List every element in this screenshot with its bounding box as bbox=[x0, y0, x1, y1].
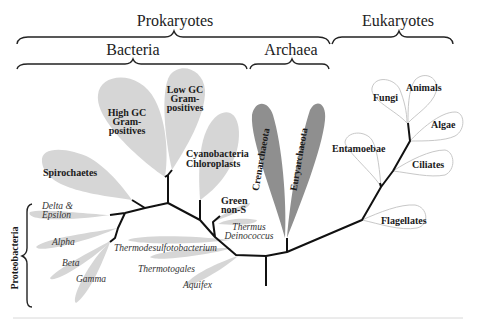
eukaryotes-label: Eukaryotes bbox=[362, 12, 434, 30]
cyanobacteria-label: CyanobacteriaChloroplasts bbox=[186, 148, 249, 169]
alpha-label: Alpha bbox=[51, 237, 75, 247]
delta-label: Delta &Epsilon bbox=[41, 201, 73, 220]
algae-label: Algae bbox=[431, 119, 456, 130]
spirochaetes-label: Spirochaetes bbox=[43, 167, 97, 178]
archaea-label: Archaea bbox=[264, 41, 317, 58]
bacteria-brace bbox=[17, 59, 247, 69]
bacteria-label: Bacteria bbox=[106, 41, 159, 58]
fungi-label: Fungi bbox=[373, 92, 398, 103]
thermotogales-label: Thermotogales bbox=[138, 264, 195, 274]
beta-label: Beta bbox=[62, 258, 80, 268]
animals-label: Animals bbox=[406, 82, 442, 93]
entamoebae-label: Entamoebae bbox=[332, 143, 386, 154]
thermus-label: ThermusDeinococcus bbox=[223, 222, 273, 241]
prokaryotes-label: Prokaryotes bbox=[137, 12, 213, 30]
proteobacteria-brace bbox=[22, 204, 32, 307]
green-nons-label: Greennon-S bbox=[221, 195, 248, 215]
archaea-brace bbox=[250, 59, 329, 69]
ciliates-label: Ciliates bbox=[412, 159, 444, 170]
thermodesulfo-label: Thermodesulfotobacterium bbox=[114, 243, 217, 253]
flagellates-label: Flagellates bbox=[381, 215, 427, 226]
proteobacteria-label: Proteobacteria bbox=[9, 226, 20, 289]
high-gc-label: High GCGram-positives bbox=[108, 107, 147, 136]
entamoebae-leaf bbox=[345, 133, 381, 187]
gamma-label: Gamma bbox=[76, 274, 106, 284]
eukaryotes-brace bbox=[332, 31, 453, 44]
low-gc-label: Low GCGram-positives bbox=[167, 84, 204, 113]
aquifex-label: Aquifex bbox=[182, 280, 213, 290]
tree-of-life-diagram: Prokaryotes Eukaryotes Bacteria Archaea … bbox=[0, 0, 477, 323]
